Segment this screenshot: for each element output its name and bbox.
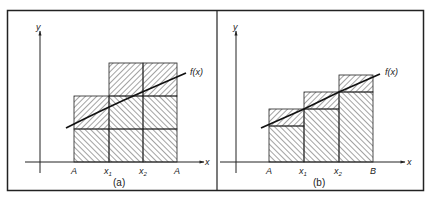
x-axis-label-a: x [204, 157, 210, 167]
curve-label-a: f(x) [190, 67, 203, 77]
tick-label-b-2: x2 [333, 166, 343, 177]
caption-a: (a) [113, 177, 125, 188]
curve-label-b: f(x) [385, 67, 398, 77]
panel-b: y x f(x) A x1 x2 B (b) [220, 22, 412, 188]
tick-label-b-0: A [265, 166, 272, 176]
figure: y x f(x) A x1 x2 A (a) y x f(x) A x1 [0, 0, 431, 202]
tick-label-a-2: x2 [138, 166, 148, 177]
tick-label-a-0: A [70, 166, 77, 176]
tick-label-b-3: B [370, 166, 376, 176]
y-axis-label-a: y [35, 22, 41, 32]
x-axis-label-b: x [406, 157, 412, 167]
tick-label-b-1: x1 [298, 166, 307, 177]
tick-label-a-1: x1 [103, 166, 112, 177]
caption-b: (b) [313, 177, 325, 188]
tick-label-a-3: A [173, 166, 180, 176]
panel-a: y x f(x) A x1 x2 A (a) [25, 22, 210, 188]
y-axis-label-b: y [232, 22, 238, 32]
grid-cells-a [74, 63, 177, 162]
